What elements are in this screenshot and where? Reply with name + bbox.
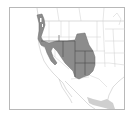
map-svg — [9, 7, 125, 110]
range-map — [9, 7, 125, 110]
